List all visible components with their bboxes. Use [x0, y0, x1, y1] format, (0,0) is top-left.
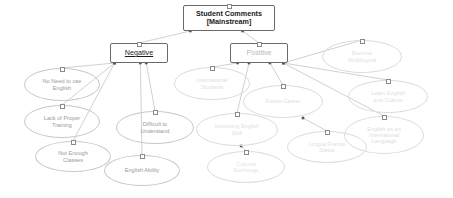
edge-positive-to-future-career [270, 63, 283, 85]
node-label-international-students: International Students [197, 77, 228, 90]
node-label-improving-english-skill: Improving English Skill [215, 123, 259, 136]
node-not-enough-classes[interactable]: Not Enough Classes [35, 141, 111, 172]
edge-negative-to-difficult-to-understand [146, 63, 155, 111]
node-label-lack-proper-training: Lack of Proper Training [44, 115, 80, 128]
node-become-multilingual[interactable]: Become Multilingual [322, 40, 402, 73]
node-improving-english-skill[interactable]: Improving English Skill [196, 113, 278, 146]
node-label-not-enough-classes: Not Enough Classes [58, 150, 88, 163]
node-handle-become-multilingual[interactable] [360, 39, 365, 44]
node-handle-root[interactable] [227, 4, 232, 9]
edge-future-career-to-lingua-franca-status [303, 118, 327, 131]
node-handle-negative[interactable] [137, 42, 142, 47]
node-root[interactable]: Student Comments [Mainstream] [183, 5, 275, 31]
node-positive[interactable]: Positive [230, 43, 288, 63]
node-english-international-language[interactable]: English as an International Language [344, 116, 424, 154]
node-handle-lack-proper-training[interactable] [60, 104, 65, 109]
node-no-need-english[interactable]: No Need to use English [24, 68, 100, 101]
node-label-future-career: Future Career [266, 98, 301, 104]
node-handle-improving-english-skill[interactable] [235, 112, 240, 117]
node-label-negative: Negative [125, 49, 153, 57]
node-difficult-to-understand[interactable]: Difficult to Understand [116, 111, 194, 144]
node-learn-english-and-culture[interactable]: Learn English and Culture [348, 80, 428, 113]
node-label-learn-english-and-culture: Learn English and Culture [371, 90, 405, 103]
node-english-ability[interactable]: English Ability [104, 155, 180, 186]
node-label-english-international-language: English as an International Language [367, 126, 401, 145]
node-label-no-need-english: No Need to use English [43, 78, 82, 91]
node-label-english-ability: English Ability [125, 167, 160, 173]
node-label-positive: Positive [246, 49, 271, 57]
node-lack-proper-training[interactable]: Lack of Proper Training [24, 105, 100, 138]
node-handle-english-ability[interactable] [140, 154, 145, 159]
node-international-students[interactable]: International Students [174, 67, 250, 100]
node-handle-lingua-franca-status[interactable] [325, 130, 330, 135]
node-cultural-exchange[interactable]: Cultural Exchange [207, 151, 285, 183]
node-handle-future-career[interactable] [281, 84, 286, 89]
node-handle-international-students[interactable] [210, 66, 215, 71]
node-label-lingua-franca-status: Lingua Franca Status [309, 141, 345, 154]
node-handle-english-international-language[interactable] [382, 115, 387, 120]
edge-endpoint-future-career-to-lingua-franca-status [302, 117, 305, 120]
node-label-become-multilingual: Become Multilingual [348, 50, 376, 63]
edge-root-to-negative [139, 31, 190, 43]
node-label-root: Student Comments [Mainstream] [196, 10, 262, 26]
node-handle-positive[interactable] [257, 42, 262, 47]
node-label-difficult-to-understand: Difficult to Understand [141, 121, 170, 134]
concept-map-canvas: Student Comments [Mainstream]NegativePos… [0, 0, 453, 198]
node-handle-learn-english-and-culture[interactable] [386, 79, 391, 84]
node-handle-no-need-english[interactable] [60, 67, 65, 72]
node-handle-cultural-exchange[interactable] [244, 150, 249, 155]
edge-negative-to-no-need-english [62, 63, 115, 68]
node-negative[interactable]: Negative [110, 43, 168, 63]
node-future-career[interactable]: Future Career [243, 85, 323, 118]
node-label-cultural-exchange: Cultural Exchange [234, 161, 259, 174]
node-handle-not-enough-classes[interactable] [71, 140, 76, 145]
node-handle-difficult-to-understand[interactable] [153, 110, 158, 115]
